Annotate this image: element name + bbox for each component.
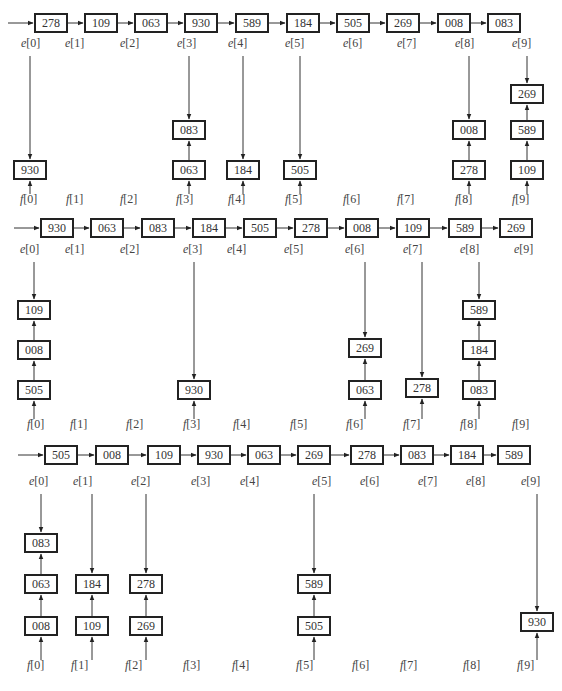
list-node: 269 xyxy=(297,445,331,465)
bucket-node: 930 xyxy=(177,380,211,400)
bucket-node: 083 xyxy=(24,533,58,553)
bucket-node: 589 xyxy=(462,300,496,320)
e-pointer-label: e[8] xyxy=(460,242,479,257)
f-pointer-label: f[8] xyxy=(463,658,480,673)
list-node: 063 xyxy=(134,13,168,33)
bucket-node: 109 xyxy=(17,300,51,320)
f-pointer-label: f[8] xyxy=(455,192,472,207)
list-node: 008 xyxy=(345,218,379,238)
e-pointer-label: e[5] xyxy=(284,242,303,257)
e-pointer-label: e[4] xyxy=(240,474,259,489)
f-pointer-label: f[0] xyxy=(20,192,37,207)
f-pointer-label: f[6] xyxy=(352,658,369,673)
e-pointer-label: e[1] xyxy=(73,474,92,489)
e-pointer-label: e[2] xyxy=(120,36,139,51)
e-pointer-label: e[6] xyxy=(343,36,362,51)
e-pointer-label: e[7] xyxy=(418,474,437,489)
f-pointer-label: f[1] xyxy=(71,658,88,673)
list-node: 083 xyxy=(487,13,521,33)
f-pointer-label: f[5] xyxy=(285,192,302,207)
bucket-node: 278 xyxy=(452,160,486,180)
list-node: 505 xyxy=(44,445,78,465)
list-node: 083 xyxy=(141,218,175,238)
list-node: 278 xyxy=(294,218,328,238)
bucket-node: 589 xyxy=(510,120,544,140)
list-node: 505 xyxy=(336,13,370,33)
e-pointer-label: e[8] xyxy=(466,474,485,489)
f-pointer-label: f[9] xyxy=(512,417,529,432)
f-pointer-label: f[7] xyxy=(397,192,414,207)
bucket-node: 589 xyxy=(297,574,331,594)
f-pointer-label: f[2] xyxy=(125,658,142,673)
f-pointer-label: f[9] xyxy=(512,192,529,207)
bucket-node: 184 xyxy=(75,574,109,594)
list-node: 589 xyxy=(235,13,269,33)
f-pointer-label: f[4] xyxy=(228,192,245,207)
e-pointer-label: e[0] xyxy=(29,474,48,489)
bucket-node: 008 xyxy=(24,616,58,636)
bucket-node: 930 xyxy=(13,160,47,180)
e-pointer-label: e[0] xyxy=(21,36,40,51)
bucket-node: 184 xyxy=(226,160,260,180)
e-pointer-label: e[1] xyxy=(65,36,84,51)
e-pointer-label: e[6] xyxy=(360,474,379,489)
e-pointer-label: e[5] xyxy=(285,36,304,51)
list-node: 505 xyxy=(243,218,277,238)
bucket-node: 063 xyxy=(24,574,58,594)
e-pointer-label: e[4] xyxy=(227,242,246,257)
bucket-node: 505 xyxy=(283,160,317,180)
list-node: 063 xyxy=(247,445,281,465)
bucket-node: 278 xyxy=(129,574,163,594)
f-pointer-label: f[1] xyxy=(66,192,83,207)
f-pointer-label: f[6] xyxy=(346,417,363,432)
f-pointer-label: f[3] xyxy=(183,417,200,432)
bucket-node: 269 xyxy=(129,616,163,636)
list-node: 063 xyxy=(90,218,124,238)
e-pointer-label: e[9] xyxy=(521,474,540,489)
bucket-node: 083 xyxy=(462,380,496,400)
f-pointer-label: f[1] xyxy=(70,417,87,432)
bucket-node: 269 xyxy=(348,338,382,358)
bucket-node: 109 xyxy=(510,160,544,180)
bucket-node: 063 xyxy=(348,380,382,400)
e-pointer-label: e[3] xyxy=(177,36,196,51)
list-node: 109 xyxy=(396,218,430,238)
list-node: 109 xyxy=(147,445,181,465)
bucket-node: 278 xyxy=(405,378,439,398)
list-node: 930 xyxy=(40,218,74,238)
e-pointer-label: e[7] xyxy=(403,242,422,257)
list-node: 278 xyxy=(34,13,68,33)
e-pointer-label: e[2] xyxy=(120,242,139,257)
e-pointer-label: e[8] xyxy=(455,36,474,51)
f-pointer-label: f[5] xyxy=(290,417,307,432)
list-node: 269 xyxy=(499,218,533,238)
e-pointer-label: e[0] xyxy=(20,242,39,257)
f-pointer-label: f[3] xyxy=(176,192,193,207)
e-pointer-label: e[6] xyxy=(345,242,364,257)
list-node: 184 xyxy=(192,218,226,238)
list-node: 008 xyxy=(95,445,129,465)
f-pointer-label: f[7] xyxy=(403,417,420,432)
list-node: 930 xyxy=(184,13,218,33)
f-pointer-label: f[4] xyxy=(233,417,250,432)
list-node: 278 xyxy=(350,445,384,465)
e-pointer-label: e[2] xyxy=(131,474,150,489)
f-pointer-label: f[9] xyxy=(517,658,534,673)
f-pointer-label: f[7] xyxy=(400,658,417,673)
f-pointer-label: f[5] xyxy=(296,658,313,673)
bucket-node: 269 xyxy=(510,84,544,104)
list-node: 184 xyxy=(286,13,320,33)
bucket-node: 184 xyxy=(462,340,496,360)
bucket-node: 008 xyxy=(17,340,51,360)
bucket-node: 083 xyxy=(172,120,206,140)
f-pointer-label: f[2] xyxy=(126,417,143,432)
e-pointer-label: e[3] xyxy=(191,474,210,489)
f-pointer-label: f[2] xyxy=(120,192,137,207)
bucket-node: 505 xyxy=(297,616,331,636)
list-node: 109 xyxy=(84,13,118,33)
bucket-node: 930 xyxy=(520,612,554,632)
bucket-node: 505 xyxy=(17,380,51,400)
radix-sort-diagram: 278109063930589184505269008083e[0]e[1]e[… xyxy=(0,0,562,691)
f-pointer-label: f[0] xyxy=(27,417,44,432)
e-pointer-label: e[9] xyxy=(512,36,531,51)
